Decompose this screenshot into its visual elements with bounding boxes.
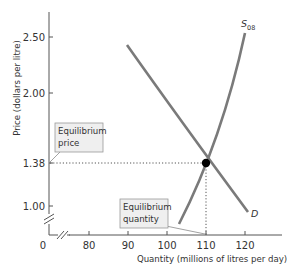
y-tick-1-00: 1.00 — [23, 201, 45, 212]
equilibrium-price-callout: Equilibrium price — [50, 123, 107, 162]
equilibrium-price-label-line1: Equilibrium — [58, 126, 107, 136]
origin-label: 0 — [40, 240, 46, 251]
supply-demand-chart: Price (dollars per litre) 2.50 2.00 1.38… — [0, 0, 290, 268]
demand-curve — [127, 45, 248, 212]
equilibrium-quantity-callout: Equilibrium quantity — [120, 199, 205, 234]
x-axis-title: Quantity (millions of litres per day) — [137, 254, 287, 264]
x-tick-110: 110 — [196, 240, 215, 251]
equilibrium-point — [202, 159, 210, 167]
y-axis-title: Price (dollars per litre) — [12, 40, 22, 136]
y-axis-break-icon — [44, 214, 54, 224]
supply-label: S08 — [241, 18, 255, 32]
y-tick-2-00: 2.00 — [23, 88, 45, 99]
equilibrium-quantity-label-line1: Equilibrium — [123, 202, 172, 212]
equilibrium-price-label-line2: price — [58, 138, 79, 148]
demand-label: D — [251, 208, 258, 219]
x-tick-120: 120 — [235, 240, 254, 251]
equilibrium-quantity-label-line2: quantity — [123, 214, 159, 224]
y-tick-1-38: 1.38 — [23, 158, 45, 169]
x-tick-80: 80 — [83, 240, 96, 251]
y-tick-2-50: 2.50 — [23, 32, 45, 43]
x-tick-90: 90 — [122, 240, 135, 251]
x-tick-100: 100 — [157, 240, 176, 251]
x-axis-break-icon — [57, 230, 70, 240]
